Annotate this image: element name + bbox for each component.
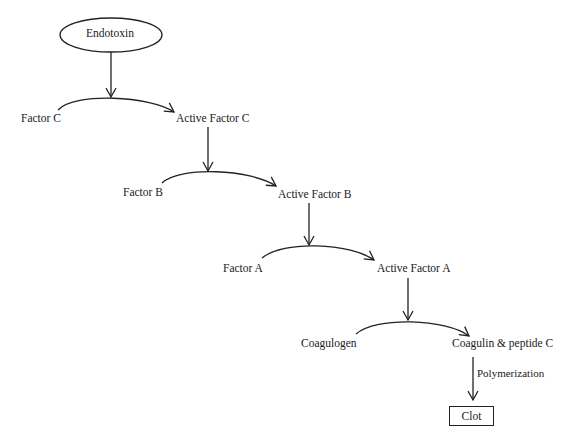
endotoxin-label: Endotoxin bbox=[86, 27, 134, 39]
active-factor-c-label: Active Factor C bbox=[176, 112, 249, 124]
coagulogen-label: Coagulogen bbox=[301, 337, 357, 349]
curve-coagulogen-conversion bbox=[356, 322, 469, 336]
clot-node: Clot bbox=[449, 406, 494, 426]
factor-a-label: Factor A bbox=[223, 262, 263, 274]
coagulin-peptide-c-label: Coagulin & peptide C bbox=[452, 337, 553, 349]
clot-label: Clot bbox=[462, 410, 482, 422]
active-factor-b-label: Active Factor B bbox=[278, 188, 351, 200]
curve-factor-a-activation bbox=[262, 246, 374, 260]
active-factor-a-label: Active Factor A bbox=[377, 262, 450, 274]
polymerization-label: Polymerization bbox=[477, 367, 544, 379]
factor-b-label: Factor B bbox=[123, 186, 163, 198]
curve-factor-b-activation bbox=[162, 172, 276, 186]
curve-factor-c-activation bbox=[58, 98, 174, 112]
factor-c-label: Factor C bbox=[21, 112, 61, 124]
